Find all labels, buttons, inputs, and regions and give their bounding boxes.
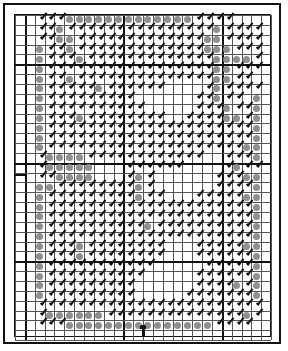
half-stitch-mark <box>188 111 195 118</box>
half-stitch-mark <box>168 42 175 49</box>
half-stitch-mark <box>99 288 106 295</box>
half-stitch-mark <box>129 111 136 118</box>
half-stitch-mark <box>257 298 264 305</box>
half-stitch-mark <box>227 190 234 197</box>
half-stitch-mark <box>139 249 146 256</box>
half-stitch-mark <box>227 318 234 325</box>
half-stitch-mark <box>198 130 205 137</box>
filled-stitch-dot <box>85 312 92 319</box>
half-stitch-mark <box>178 298 185 305</box>
half-stitch-mark <box>99 180 106 187</box>
half-stitch-mark <box>188 140 195 147</box>
half-stitch-mark <box>168 199 175 206</box>
half-stitch-mark <box>89 249 96 256</box>
half-stitch-mark <box>227 199 234 206</box>
half-stitch-mark <box>109 288 116 295</box>
half-stitch-mark <box>80 268 87 275</box>
half-stitch-mark <box>89 209 96 216</box>
half-stitch-mark <box>50 81 57 88</box>
filled-stitch-dot <box>223 46 230 53</box>
half-stitch-mark <box>237 229 244 236</box>
half-stitch-mark <box>139 209 146 216</box>
half-stitch-mark <box>198 150 205 157</box>
half-stitch-mark <box>70 219 77 226</box>
half-stitch-mark <box>99 52 106 59</box>
half-stitch-mark <box>149 170 156 177</box>
filled-stitch-dot <box>76 164 83 171</box>
half-stitch-mark <box>70 140 77 147</box>
half-stitch-mark <box>129 42 136 49</box>
half-stitch-mark <box>237 91 244 98</box>
half-stitch-mark <box>129 249 136 256</box>
half-stitch-mark <box>109 111 116 118</box>
filled-stitch-dot <box>204 36 211 43</box>
half-stitch-mark <box>109 81 116 88</box>
filled-stitch-dot <box>233 56 240 63</box>
half-stitch-mark <box>60 101 67 108</box>
half-stitch-mark <box>188 209 195 216</box>
half-stitch-mark <box>158 190 165 197</box>
half-stitch-mark <box>99 219 106 226</box>
half-stitch-mark <box>168 209 175 216</box>
filled-stitch-dot <box>253 292 260 299</box>
half-stitch-mark <box>149 32 156 39</box>
half-stitch-mark <box>129 239 136 246</box>
half-stitch-mark <box>198 239 205 246</box>
half-stitch-mark <box>188 52 195 59</box>
half-stitch-mark <box>198 308 205 315</box>
half-stitch-mark <box>50 130 57 137</box>
half-stitch-mark <box>40 32 47 39</box>
half-stitch-mark <box>198 249 205 256</box>
half-stitch-mark <box>149 249 156 256</box>
half-stitch-mark <box>60 298 67 305</box>
half-stitch-mark <box>129 278 136 285</box>
half-stitch-mark <box>198 52 205 59</box>
half-stitch-mark <box>158 22 165 29</box>
filled-stitch-dot <box>223 66 230 73</box>
half-stitch-mark <box>80 140 87 147</box>
half-stitch-mark <box>80 219 87 226</box>
half-stitch-mark <box>149 180 156 187</box>
half-stitch-mark <box>149 239 156 246</box>
filled-stitch-dot <box>164 16 171 23</box>
half-stitch-mark <box>198 121 205 128</box>
half-stitch-mark <box>60 209 67 216</box>
half-stitch-mark <box>208 121 215 128</box>
half-stitch-mark <box>158 229 165 236</box>
half-stitch-mark <box>139 81 146 88</box>
half-stitch-mark <box>178 52 185 59</box>
filled-stitch-dot <box>253 273 260 280</box>
half-stitch-mark <box>188 42 195 49</box>
filled-stitch-dot <box>154 322 161 329</box>
half-stitch-mark <box>109 278 116 285</box>
half-stitch-mark <box>50 140 57 147</box>
half-stitch-mark <box>60 81 67 88</box>
filled-stitch-dot <box>36 253 43 260</box>
half-stitch-mark <box>139 239 146 246</box>
half-stitch-mark <box>50 268 57 275</box>
filled-stitch-dot <box>36 243 43 250</box>
half-stitch-mark <box>227 150 234 157</box>
filled-stitch-dot <box>115 322 122 329</box>
half-stitch-mark <box>168 71 175 78</box>
half-stitch-mark <box>198 229 205 236</box>
half-stitch-mark <box>70 180 77 187</box>
half-stitch-mark <box>139 71 146 78</box>
filled-stitch-dot <box>204 322 211 329</box>
filled-stitch-dot <box>223 105 230 112</box>
center-row-marker <box>15 174 26 176</box>
half-stitch-mark <box>198 190 205 197</box>
half-stitch-mark <box>237 101 244 108</box>
half-stitch-mark <box>109 32 116 39</box>
half-stitch-mark <box>80 278 87 285</box>
half-stitch-mark <box>247 298 254 305</box>
filled-stitch-dot <box>46 164 53 171</box>
half-stitch-mark <box>99 209 106 216</box>
filled-stitch-dot <box>36 85 43 92</box>
filled-stitch-dot <box>36 144 43 151</box>
half-stitch-mark <box>129 130 136 137</box>
filled-stitch-dot <box>56 312 63 319</box>
half-stitch-mark <box>129 22 136 29</box>
half-stitch-mark <box>168 121 175 128</box>
half-stitch-mark <box>60 249 67 256</box>
